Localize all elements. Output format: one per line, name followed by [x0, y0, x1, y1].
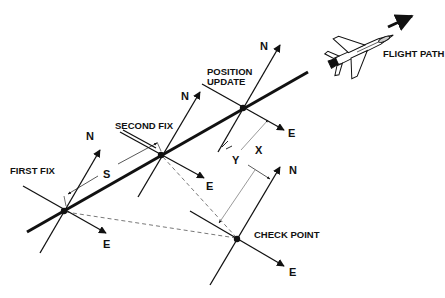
first-fix-label: FIRST FIX	[10, 165, 56, 176]
east-label-check-point: E	[289, 266, 296, 278]
north-label-position-update: N	[260, 40, 268, 52]
east-label-second-fix: E	[206, 180, 213, 192]
flight-direction-arrow	[388, 16, 412, 27]
north-label-first-fix: N	[86, 130, 94, 142]
navigation-fix-diagram: N E FIRST FIX S N E SECOND FIX N E POSIT…	[0, 0, 445, 298]
check-point-axes	[190, 167, 284, 285]
second-fix-point	[158, 152, 164, 158]
north-label-check-point: N	[289, 164, 297, 176]
dashed-line-second-to-check	[163, 157, 236, 237]
flight-path-line	[27, 72, 308, 232]
north-label-second-fix: N	[181, 90, 189, 102]
offset-x-label: X	[255, 144, 263, 156]
distance-s-dimension	[64, 142, 161, 206]
position-update-axes	[202, 45, 284, 152]
second-fix-label: SECOND FIX	[115, 120, 174, 131]
offset-y-label: Y	[232, 154, 240, 166]
xy-offset-dimensions	[219, 120, 270, 223]
east-label-position-update: E	[288, 127, 295, 139]
position-update-label-line2: UPDATE	[207, 76, 245, 87]
east-label-first-fix: E	[103, 238, 110, 250]
first-fix-point	[61, 208, 67, 214]
flight-path-label: FLIGHT PATH	[383, 48, 445, 59]
check-point-label: CHECK POINT	[254, 229, 320, 240]
second-fix-axes	[120, 92, 204, 197]
distance-s-label: S	[103, 168, 110, 180]
check-point-point	[234, 236, 240, 242]
position-update-point	[240, 105, 246, 111]
